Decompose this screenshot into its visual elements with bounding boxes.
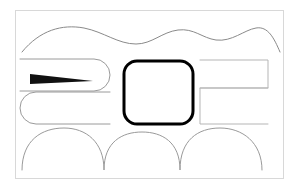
illustration-canvas [0,0,298,187]
center-rounded-rect [124,61,193,124]
abstract-line-art [0,0,298,187]
